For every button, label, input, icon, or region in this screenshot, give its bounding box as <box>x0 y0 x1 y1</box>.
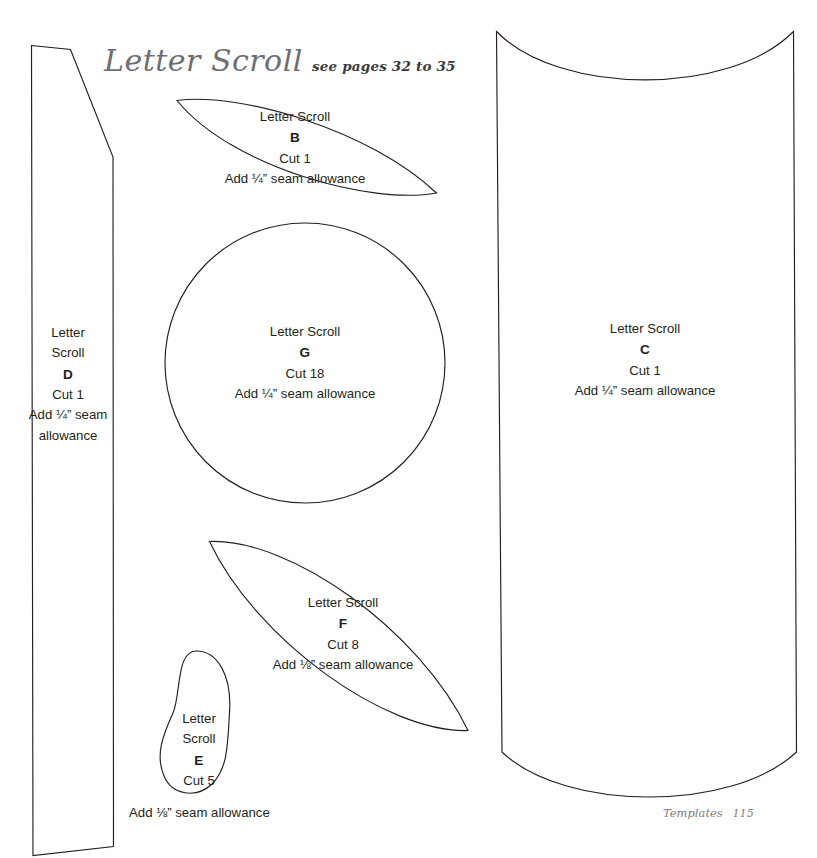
piece-d-letter: D <box>17 364 119 385</box>
piece-f-cut: Cut 8 <box>239 635 447 655</box>
pattern-pieces-artwork <box>0 0 817 858</box>
page-title: Letter Scroll <box>104 43 303 78</box>
piece-b-seam: Add ¼” seam allowance <box>191 169 399 189</box>
piece-label-f: Letter Scroll F Cut 8 Add ⅛” seam allowa… <box>239 593 447 675</box>
piece-e-cut: Cut 5 <box>151 771 247 791</box>
page-footer: Templates 115 <box>663 806 754 820</box>
page-title-block: Letter Scroll see pages 32 to 35 <box>104 43 456 78</box>
piece-d-name-2: Scroll <box>17 343 119 363</box>
piece-d-seam-1: Add ¼” seam <box>17 405 119 425</box>
piece-e-name-2: Scroll <box>151 729 247 749</box>
piece-label-c: Letter Scroll C Cut 1 Add ¼” seam allowa… <box>541 319 749 401</box>
pattern-piece-c-outline <box>497 32 797 798</box>
piece-f-seam: Add ⅛” seam allowance <box>239 655 447 675</box>
piece-f-name: Letter Scroll <box>239 593 447 613</box>
template-page: Letter Scroll see pages 32 to 35 Letter … <box>0 0 817 858</box>
piece-g-letter: G <box>201 342 409 363</box>
footer-section-label: Templates <box>663 806 723 820</box>
piece-label-d: Letter Scroll D Cut 1 Add ¼” seam allowa… <box>17 323 119 446</box>
piece-f-letter: F <box>239 613 447 634</box>
piece-g-seam: Add ¼” seam allowance <box>201 384 409 404</box>
piece-d-cut: Cut 1 <box>17 385 119 405</box>
piece-c-cut: Cut 1 <box>541 361 749 381</box>
pattern-piece-d-outline <box>32 46 114 856</box>
piece-label-e: Letter Scroll E Cut 5 <box>151 709 247 791</box>
piece-c-seam: Add ¼” seam allowance <box>541 381 749 401</box>
piece-g-cut: Cut 18 <box>201 364 409 384</box>
piece-c-letter: C <box>541 339 749 360</box>
piece-b-letter: B <box>191 127 399 148</box>
piece-e-letter: E <box>151 750 247 771</box>
piece-d-seam-2: allowance <box>17 426 119 446</box>
piece-e-seam-note: Add ⅛” seam allowance <box>129 805 270 820</box>
piece-label-b: Letter Scroll B Cut 1 Add ¼” seam allowa… <box>191 107 399 189</box>
piece-g-name: Letter Scroll <box>201 322 409 342</box>
footer-page-number: 115 <box>733 807 754 819</box>
piece-d-name-1: Letter <box>17 323 119 343</box>
piece-label-g: Letter Scroll G Cut 18 Add ¼” seam allow… <box>201 322 409 404</box>
piece-b-cut: Cut 1 <box>191 149 399 169</box>
piece-e-name-1: Letter <box>151 709 247 729</box>
page-subtitle: see pages 32 to 35 <box>312 58 456 74</box>
piece-b-name: Letter Scroll <box>191 107 399 127</box>
piece-c-name: Letter Scroll <box>541 319 749 339</box>
